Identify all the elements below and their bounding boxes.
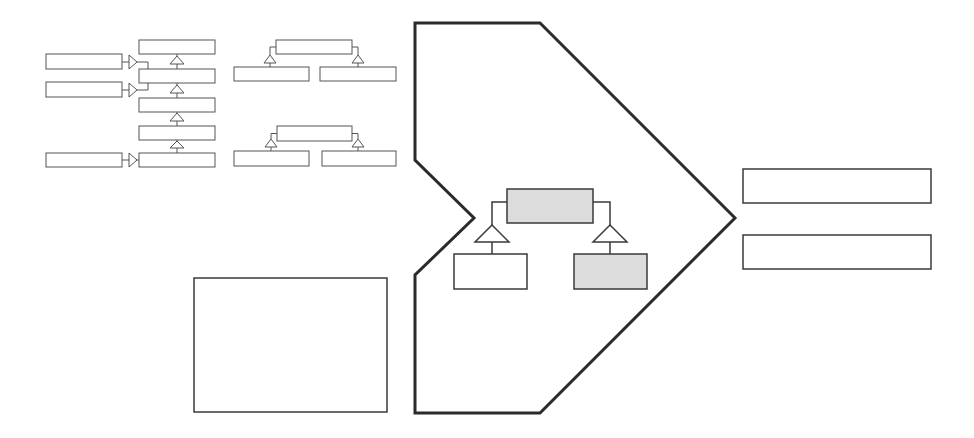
parent-class-box	[277, 126, 352, 141]
inheritance-triangle-icon	[264, 55, 276, 63]
child-class-box	[454, 254, 527, 289]
child-class-box	[234, 67, 309, 81]
inheritance-triangle-icon	[170, 113, 184, 121]
class-box	[139, 40, 215, 54]
parent-class-box-highlighted	[507, 189, 593, 223]
class-box	[139, 126, 215, 140]
connector-line	[593, 202, 610, 225]
empty-box	[194, 278, 387, 412]
class-box	[139, 69, 215, 83]
connector-line	[270, 47, 276, 55]
connector-line	[137, 83, 148, 90]
right-box-group	[743, 169, 931, 269]
center-tree-diagram	[454, 189, 647, 289]
inheritance-triangle-icon	[170, 85, 184, 93]
child-class-box	[320, 67, 396, 81]
parent-class-box	[276, 40, 352, 54]
inheritance-triangle-icon	[475, 225, 509, 242]
connector-line	[137, 62, 148, 69]
composition-arrow-icon	[129, 153, 137, 167]
inheritance-triangle-icon	[593, 225, 627, 242]
inheritance-chain-diagram	[46, 40, 215, 167]
child-class-box	[234, 151, 309, 166]
child-class-box	[322, 151, 396, 166]
class-box	[139, 98, 215, 112]
composition-arrow-icon	[129, 83, 137, 97]
diagram-canvas	[0, 0, 974, 438]
inheritance-triangle-icon	[265, 139, 277, 147]
inheritance-triangle-icon	[352, 139, 364, 147]
connector-line	[352, 134, 358, 140]
connector-line	[271, 134, 277, 140]
connector-line	[352, 47, 358, 55]
class-box	[46, 153, 122, 167]
composition-arrow-icon	[129, 55, 137, 69]
class-box	[139, 153, 215, 167]
inheritance-triangle-icon	[170, 56, 184, 64]
class-box	[46, 54, 122, 69]
small-tree-diagram-top	[234, 40, 396, 81]
small-tree-diagram-bottom	[234, 126, 396, 166]
inheritance-triangle-icon	[170, 141, 184, 148]
inheritance-triangle-icon	[352, 55, 364, 63]
output-box	[743, 235, 931, 269]
child-class-box-highlighted	[574, 254, 647, 289]
connector-line	[492, 202, 507, 225]
empty-rectangle	[194, 278, 387, 412]
class-box	[46, 82, 122, 97]
output-box	[743, 169, 931, 203]
